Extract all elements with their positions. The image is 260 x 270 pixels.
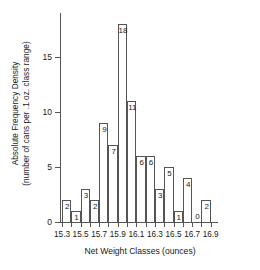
bar-value-label: 6 <box>146 158 155 167</box>
bar-value-label: 5 <box>165 169 174 178</box>
bar <box>99 123 108 222</box>
bar-value-label: 9 <box>100 125 109 134</box>
bar <box>108 145 117 222</box>
histogram-chart: Absolute Frequency Density (number of ca… <box>0 0 260 270</box>
bar-series: 213297181166351402 <box>0 0 260 270</box>
x-axis-title: Net Weight Classes (ounces) <box>30 246 250 256</box>
bar-value-label: 2 <box>63 202 72 211</box>
bar <box>118 24 127 222</box>
bar-value-label: 11 <box>128 103 137 112</box>
bar-value-label: 3 <box>81 191 90 200</box>
bar-value-label: 2 <box>202 202 211 211</box>
bar-value-label: 4 <box>184 180 193 189</box>
bar-value-label: 18 <box>119 26 128 35</box>
bar <box>127 101 136 222</box>
